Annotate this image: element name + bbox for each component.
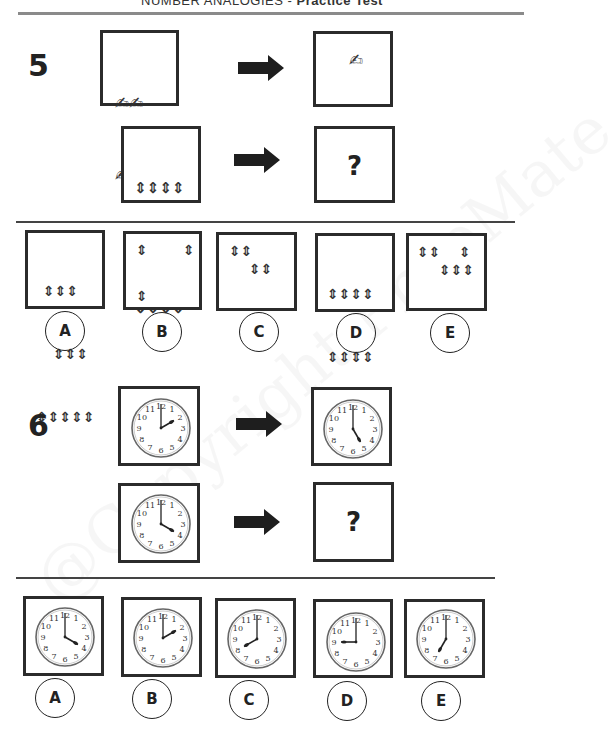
hand-writing-icon: ✍ [349, 52, 363, 68]
svg-text:4: 4 [370, 436, 375, 445]
q5-option-b-label[interactable]: B [142, 312, 182, 352]
svg-text:4: 4 [82, 644, 87, 653]
svg-text:11: 11 [147, 615, 157, 624]
svg-text:2: 2 [373, 627, 378, 636]
clock-icon: 123456789101112 [132, 607, 194, 669]
svg-text:1: 1 [265, 616, 270, 625]
svg-text:5: 5 [361, 444, 366, 453]
clock-icon: 123456789101112 [322, 398, 384, 460]
q5-option-e-label[interactable]: E [430, 313, 470, 353]
svg-text:7: 7 [432, 654, 437, 663]
svg-text:10: 10 [139, 623, 149, 632]
q5-option-c-label[interactable]: C [239, 312, 279, 352]
q6-option-e-label[interactable]: E [421, 681, 461, 721]
symbol-row: ⇕⇕⇕⇕ [327, 284, 374, 305]
up-down-arrow-icon: ⇕ [136, 242, 148, 258]
svg-text:3: 3 [276, 635, 281, 644]
clock-icon: 123456789101112 [415, 608, 477, 670]
svg-text:7: 7 [243, 654, 248, 663]
svg-text:11: 11 [145, 501, 155, 510]
svg-text:9: 9 [40, 633, 45, 642]
svg-text:11: 11 [145, 405, 155, 414]
q6-example-from-box: 123456789101112 [118, 386, 200, 466]
question-number-5: 5 [28, 48, 49, 83]
q5-option-a-box[interactable]: ⇕⇕⇕ ⇕⇕⇕ ⇕⇕⇕⇕⇕ [25, 230, 105, 309]
q5-option-d-label[interactable]: D [336, 313, 376, 353]
up-down-arrow-icon-group: ⇕⇕⇕ [439, 262, 474, 278]
svg-text:8: 8 [139, 435, 144, 444]
svg-text:2: 2 [82, 622, 87, 631]
svg-text:8: 8 [331, 436, 336, 445]
svg-text:9: 9 [328, 425, 333, 434]
svg-text:4: 4 [463, 646, 468, 655]
svg-text:3: 3 [372, 425, 377, 434]
svg-text:6: 6 [350, 447, 355, 456]
up-down-arrow-icon: ⇕ [183, 242, 195, 258]
svg-text:1: 1 [454, 616, 459, 625]
q5-answer-box: ? [314, 126, 395, 203]
svg-text:9: 9 [136, 424, 141, 433]
svg-text:2: 2 [370, 414, 375, 423]
svg-text:4: 4 [178, 531, 183, 540]
q5-option-a-label[interactable]: A [45, 311, 85, 351]
svg-text:11: 11 [430, 616, 440, 625]
svg-text:8: 8 [139, 531, 144, 540]
q6-option-b-box[interactable]: 123456789101112 [121, 597, 202, 677]
clock-icon: 123456789101112 [34, 606, 96, 668]
svg-text:10: 10 [329, 414, 339, 423]
svg-text:10: 10 [422, 624, 432, 633]
q6-option-a-box[interactable]: 123456789101112 [23, 596, 104, 676]
question-mark: ? [317, 151, 392, 181]
svg-text:1: 1 [169, 501, 174, 510]
q6-option-e-box[interactable]: 123456789101112 [404, 599, 485, 678]
clock-icon: 123456789101112 [325, 611, 387, 673]
q6-option-c-box[interactable]: 123456789101112 [215, 598, 296, 678]
q6-option-a-label[interactable]: A [35, 678, 75, 718]
svg-text:7: 7 [149, 653, 154, 662]
svg-text:7: 7 [51, 652, 56, 661]
svg-text:2: 2 [274, 624, 279, 633]
q6-option-d-label[interactable]: D [327, 681, 367, 721]
svg-text:1: 1 [169, 405, 174, 414]
svg-text:11: 11 [337, 406, 347, 415]
svg-text:9: 9 [232, 635, 237, 644]
q5-problem-from-box: ⇕⇕⇕⇕ ⇕⇕⇕⇕ ⇕⇕⇕⇕ [121, 126, 201, 203]
q5-option-c-box[interactable]: ⇕⇕ ⇕⇕ [216, 232, 297, 311]
up-down-arrow-icon-group: ⇕⇕ [229, 243, 252, 259]
q6-option-c-label[interactable]: C [229, 680, 269, 720]
arrow-right-icon [234, 509, 280, 535]
svg-text:7: 7 [147, 443, 152, 452]
clock-icon: 123456789101112 [130, 397, 192, 459]
clock-icon: 123456789101112 [226, 608, 288, 670]
q6-option-d-box[interactable]: 123456789101112 [313, 599, 393, 678]
svg-text:6: 6 [254, 657, 259, 666]
svg-text:10: 10 [137, 509, 147, 518]
svg-text:1: 1 [171, 615, 176, 624]
svg-text:8: 8 [334, 649, 339, 658]
svg-text:10: 10 [332, 627, 342, 636]
svg-text:7: 7 [339, 444, 344, 453]
svg-text:11: 11 [340, 619, 350, 628]
q5-option-e-box[interactable]: ⇕⇕ ⇕ ⇕⇕⇕ [406, 233, 487, 311]
svg-text:5: 5 [73, 652, 78, 661]
section-divider [16, 221, 515, 223]
svg-text:5: 5 [364, 657, 369, 666]
arrow-right-icon [236, 411, 282, 437]
question-mark: ? [316, 507, 391, 537]
q5-option-b-box[interactable]: ⇕ ⇕ ⇕ [123, 231, 202, 310]
svg-text:3: 3 [84, 633, 89, 642]
svg-text:3: 3 [182, 634, 187, 643]
svg-text:8: 8 [43, 644, 48, 653]
q6-option-b-label[interactable]: B [132, 679, 172, 719]
svg-text:6: 6 [62, 655, 67, 664]
q6-problem-from-box: 123456789101112 [118, 483, 200, 563]
up-down-arrow-icon-group: ⇕⇕ [249, 261, 272, 277]
q5-option-d-box[interactable]: ⇕⇕⇕⇕ ⇕⇕⇕⇕ ⇕⇕ [315, 233, 395, 312]
svg-text:4: 4 [274, 646, 279, 655]
svg-text:9: 9 [421, 635, 426, 644]
up-down-arrow-icon: ⇕ [459, 244, 471, 260]
svg-text:7: 7 [147, 539, 152, 548]
svg-text:6: 6 [158, 542, 163, 551]
q6-example-to-box: 123456789101112 [311, 387, 392, 466]
svg-text:6: 6 [160, 656, 165, 665]
